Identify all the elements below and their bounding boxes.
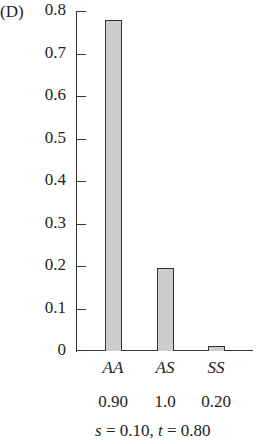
y-tick-label: 0.6 (26, 85, 66, 105)
s-variable: s (95, 421, 102, 440)
y-tick-mark (76, 181, 86, 182)
bar-aa (105, 20, 122, 352)
y-tick-mark (76, 309, 86, 310)
y-tick-label: 0.3 (26, 213, 66, 233)
y-tick-label: 0.5 (26, 128, 66, 148)
fitness-value-label: 1.0 (140, 392, 190, 412)
y-tick-label: 0.2 (26, 255, 66, 275)
y-tick-label: 0.8 (26, 0, 66, 20)
y-tick-mark (76, 96, 86, 97)
y-tick-label: 0.4 (26, 170, 66, 190)
bar-as (157, 268, 174, 351)
t-value: = 0.80 (163, 421, 211, 440)
y-tick-mark (76, 266, 86, 267)
y-tick-mark (76, 224, 86, 225)
y-tick-label: 0.1 (26, 298, 66, 318)
y-axis (76, 12, 77, 352)
y-tick-mark (76, 139, 86, 140)
panel-label: (D) (0, 2, 24, 22)
parameter-caption: s = 0.10, t = 0.80 (95, 421, 211, 441)
fitness-value-label: 0.90 (88, 392, 138, 412)
fitness-value-label: 0.20 (191, 392, 241, 412)
y-tick-label: 0.7 (26, 43, 66, 63)
bar-ss (208, 346, 225, 351)
y-tick-mark (76, 54, 86, 55)
x-category-label: AS (140, 358, 190, 378)
s-value: = 0.10, (102, 421, 158, 440)
y-tick-label: 0 (26, 340, 66, 360)
x-category-label: AA (88, 358, 138, 378)
y-tick-mark (76, 11, 86, 12)
x-category-label: SS (191, 358, 241, 378)
